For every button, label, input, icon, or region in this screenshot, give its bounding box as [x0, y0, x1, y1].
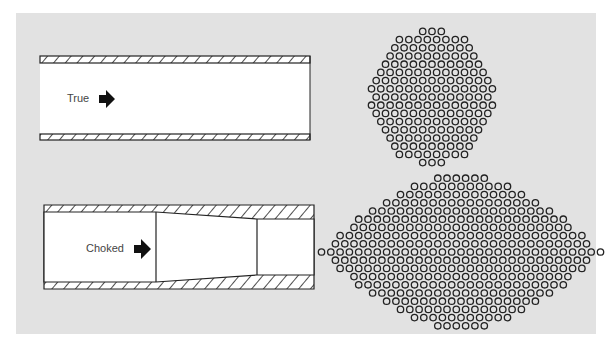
choked-pipe-bore: [44, 212, 314, 282]
choked-pipe: [44, 205, 314, 289]
choked-label: Choked: [86, 242, 124, 254]
true-pipe-bottom-wall: [40, 134, 310, 140]
choked-circle-cluster: [318, 175, 603, 329]
true-circle-cluster: [368, 28, 495, 166]
flow-diagram: [0, 0, 610, 348]
true-label: True: [67, 92, 89, 104]
true-pipe-top-wall: [40, 56, 310, 63]
